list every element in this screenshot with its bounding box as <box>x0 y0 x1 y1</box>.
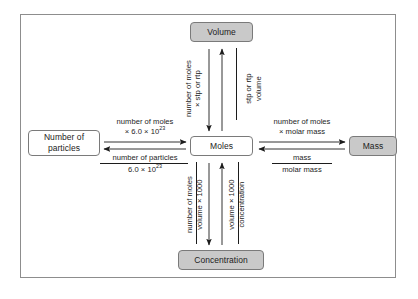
edge-label-mass-to-moles-denominator: molar mass <box>262 165 342 174</box>
edge-label-moles-to-particles-denominator: 6.0 × 1023 <box>98 165 192 174</box>
edge-label-concentration-to-moles-numerator: concentration <box>237 159 246 251</box>
edge-label-particles-to-moles-line1: number of moles <box>100 117 190 126</box>
node-particles[interactable]: Number of particles <box>28 130 100 156</box>
fraction-line-mass-to-moles <box>272 163 332 164</box>
fraction-line-volume-to-moles <box>236 48 237 120</box>
edge-label-volume-to-moles-denominator: stp or rtp <box>244 46 253 132</box>
edge-label-moles-to-volume-line2: × stp or rtp <box>193 46 202 132</box>
edge-label-moles-to-mass-line2: × molar mass <box>258 127 346 136</box>
edge-label-concentration-to-moles-denominator: volume × 1000 <box>227 159 236 251</box>
node-mass[interactable]: Mass <box>349 136 397 156</box>
edge-label-mass-to-moles-numerator: mass <box>262 153 342 162</box>
node-mass-label: Mass <box>363 141 384 152</box>
diagram-canvas: Volume Moles Concentration Number of par… <box>0 0 418 299</box>
node-particles-label-line1: Number of <box>44 132 84 142</box>
node-concentration-label: Concentration <box>194 255 248 266</box>
edge-label-particles-to-moles-line2-text: × 6.0 × 10 <box>125 127 159 136</box>
node-moles-label: Moles <box>210 141 233 152</box>
node-volume-label: Volume <box>207 27 236 38</box>
edge-label-particles-to-moles-exponent: 23 <box>159 125 165 131</box>
node-particles-label: Number of particles <box>44 132 84 153</box>
node-particles-label-line2: particles <box>48 143 80 153</box>
fraction-line-moles-to-particles <box>100 163 188 164</box>
edge-label-moles-to-mass-line1: number of moles <box>258 117 346 126</box>
node-volume[interactable]: Volume <box>190 22 253 42</box>
edge-label-particles-to-moles-line2: × 6.0 × 1023 <box>100 127 190 136</box>
node-concentration[interactable]: Concentration <box>178 250 264 270</box>
edge-label-moles-to-particles-numerator: number of particles <box>98 153 192 162</box>
edge-label-moles-to-particles-denominator-text: 6.0 × 10 <box>128 165 156 174</box>
node-moles[interactable]: Moles <box>190 136 253 156</box>
edge-label-moles-to-concentration-numerator: number of moles <box>185 159 194 251</box>
edge-label-moles-to-particles-exponent: 23 <box>156 163 162 169</box>
edge-label-moles-to-concentration-denominator: volume × 1000 <box>195 159 204 251</box>
